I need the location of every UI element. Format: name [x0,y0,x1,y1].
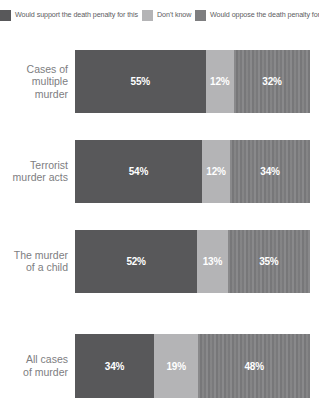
chart-row: Cases ofmultiplemurder 55% 12% 32% [0,50,319,113]
stacked-bar: 54% 12% 34% [75,140,310,203]
segment-value: 54% [129,166,148,177]
stacked-bar: 55% 12% 32% [75,50,310,113]
bar-segment-dont-know[interactable]: 13% [197,230,228,293]
segment-value: 48% [244,361,263,372]
stacked-bar-chart: Cases ofmultiplemurder 55% 12% 32% Terro… [0,0,319,414]
bar-segment-support[interactable]: 34% [75,334,154,398]
segment-value: 55% [131,76,150,87]
bar-segment-oppose[interactable]: 32% [234,50,310,113]
chart-row: All casesof murder 34% 19% 48% [0,334,319,398]
row-label: The murderof a child [0,249,68,274]
segment-value: 12% [210,76,229,87]
bar-segment-oppose[interactable]: 34% [230,140,310,203]
bar-segment-oppose[interactable]: 48% [198,334,310,398]
bar-segment-support[interactable]: 52% [75,230,197,293]
segment-value: 19% [166,361,185,372]
row-label: Cases ofmultiplemurder [0,63,68,101]
bar-segment-support[interactable]: 54% [75,140,202,203]
segment-value: 32% [262,76,281,87]
segment-value: 34% [105,361,124,372]
bar-segment-dont-know[interactable]: 12% [206,50,234,113]
chart-row: The murderof a child 52% 13% 35% [0,230,319,293]
row-label: Terroristmurder acts [0,159,68,184]
stacked-bar: 52% 13% 35% [75,230,310,293]
bar-segment-oppose[interactable]: 35% [228,230,310,293]
row-label: All casesof murder [0,353,68,378]
bar-segment-dont-know[interactable]: 12% [202,140,230,203]
segment-value: 13% [203,256,222,267]
bar-segment-support[interactable]: 55% [75,50,206,113]
bar-segment-dont-know[interactable]: 19% [154,334,198,398]
segment-value: 35% [259,256,278,267]
stacked-bar: 34% 19% 48% [75,334,310,398]
segment-value: 34% [260,166,279,177]
segment-value: 12% [206,166,225,177]
chart-row: Terroristmurder acts 54% 12% 34% [0,140,319,203]
segment-value: 52% [126,256,145,267]
